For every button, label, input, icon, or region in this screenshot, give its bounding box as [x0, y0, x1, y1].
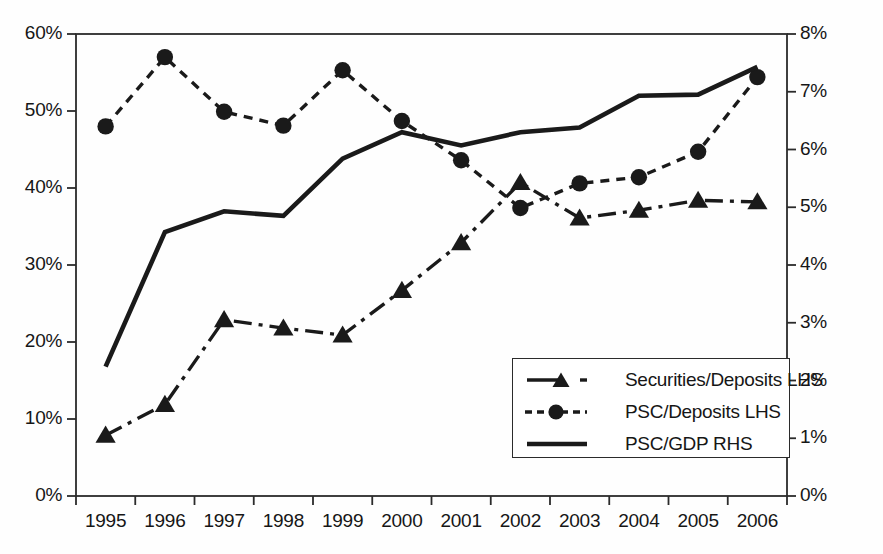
legend-label: Securities/Deposits LHS — [625, 369, 823, 391]
y-axis-right-label: 0% — [800, 484, 880, 506]
data-point — [96, 426, 116, 443]
data-point — [214, 310, 234, 327]
data-point — [334, 62, 350, 78]
y-axis-left-label: 30% — [0, 253, 62, 275]
x-axis-label: 2006 — [717, 510, 797, 532]
y-axis-right-label: 5% — [800, 195, 880, 217]
legend-item-securities-deposits[interactable]: Securities/Deposits LHS — [525, 365, 823, 395]
chart-canvas — [0, 0, 883, 554]
y-axis-right-label: 3% — [800, 311, 880, 333]
data-point — [570, 208, 590, 225]
data-point — [216, 104, 232, 120]
y-axis-right-label: 8% — [800, 22, 880, 44]
legend-swatch-dashed-circle-icon — [525, 401, 611, 423]
data-point — [155, 395, 175, 412]
series-psc-gdp-rhs — [106, 67, 758, 367]
series-psc-deposits-lhs — [97, 49, 765, 216]
data-point — [157, 49, 173, 65]
legend-label: PSC/Deposits LHS — [625, 401, 781, 423]
data-point — [394, 113, 410, 129]
chart-figure: 0%10%20%30%40%50%60%0%1%2%3%4%5%6%7%8%19… — [0, 0, 883, 554]
data-point — [97, 118, 113, 134]
y-axis-right-label: 6% — [800, 138, 880, 160]
data-point — [510, 173, 530, 190]
data-point — [690, 144, 706, 160]
y-axis-right-label: 7% — [800, 80, 880, 102]
data-point — [453, 152, 469, 168]
y-axis-left-label: 20% — [0, 330, 62, 352]
data-point — [512, 200, 528, 216]
y-axis-right-label: 1% — [800, 426, 880, 448]
series-line — [106, 57, 758, 208]
y-axis-left-label: 0% — [0, 484, 62, 506]
y-axis-left-label: 50% — [0, 99, 62, 121]
legend-item-psc-gdp[interactable]: PSC/GDP RHS — [525, 429, 752, 459]
y-axis-right-label: 4% — [800, 253, 880, 275]
legend-swatch-solid-line-icon — [525, 433, 611, 455]
y-axis-left-label: 40% — [0, 176, 62, 198]
data-point — [631, 169, 647, 185]
legend-item-psc-deposits[interactable]: PSC/Deposits LHS — [525, 397, 781, 427]
legend-swatch-dash-dot-triangle-icon — [525, 369, 611, 391]
chart-legend: Securities/Deposits LHS PSC/Deposits LHS… — [512, 358, 790, 458]
data-point — [571, 175, 587, 191]
legend-label: PSC/GDP RHS — [625, 433, 752, 455]
y-axis-left-label: 60% — [0, 22, 62, 44]
series-line — [106, 67, 758, 367]
y-axis-left-label: 10% — [0, 407, 62, 429]
data-point — [275, 117, 291, 133]
